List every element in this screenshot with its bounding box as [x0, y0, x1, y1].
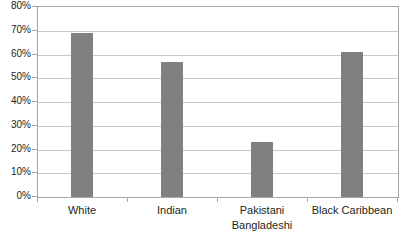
x-tick-mark: [397, 197, 398, 202]
bars-layer: [38, 7, 398, 197]
x-tick-mark: [307, 197, 308, 202]
x-category-label-pakistani-bangladeshi: Pakistani Bangladeshi: [217, 203, 307, 233]
y-tick-label: 10%: [0, 167, 31, 177]
bar-chart: 80% 70% 60% 50% 40% 30% 20% 10% 0%: [0, 0, 409, 240]
x-category-line: Indian: [157, 204, 187, 216]
y-tick-label: 20%: [0, 144, 31, 154]
x-tick-mark: [217, 197, 218, 202]
y-tick-label: 30%: [0, 120, 31, 130]
y-tick-label: 60%: [0, 49, 31, 59]
plot-area: [37, 6, 399, 198]
x-category-label-black-caribbean: Black Caribbean: [305, 203, 399, 218]
x-category-line: Bangladeshi: [217, 218, 307, 233]
y-tick-label: 0%: [0, 191, 31, 201]
y-tick-label: 70%: [0, 25, 31, 35]
x-tick-mark: [37, 197, 38, 202]
x-category-label-indian: Indian: [127, 203, 217, 218]
y-tick-label: 80%: [0, 1, 31, 11]
bar-black-caribbean[interactable]: [341, 52, 363, 197]
x-category-label-white: White: [37, 203, 127, 218]
y-tick-label: 40%: [0, 96, 31, 106]
bar-pakistani-bangladeshi[interactable]: [251, 142, 273, 197]
bar-indian[interactable]: [161, 62, 183, 197]
x-category-line: White: [68, 204, 96, 216]
x-axis: White Indian Pakistani Bangladeshi Black…: [37, 203, 397, 240]
x-category-line: Black Caribbean: [312, 204, 393, 216]
x-category-line: Pakistani: [240, 204, 285, 216]
bar-white[interactable]: [71, 33, 93, 197]
x-tick-mark: [127, 197, 128, 202]
y-tick-label: 50%: [0, 72, 31, 82]
y-axis: 80% 70% 60% 50% 40% 30% 20% 10% 0%: [0, 0, 34, 202]
